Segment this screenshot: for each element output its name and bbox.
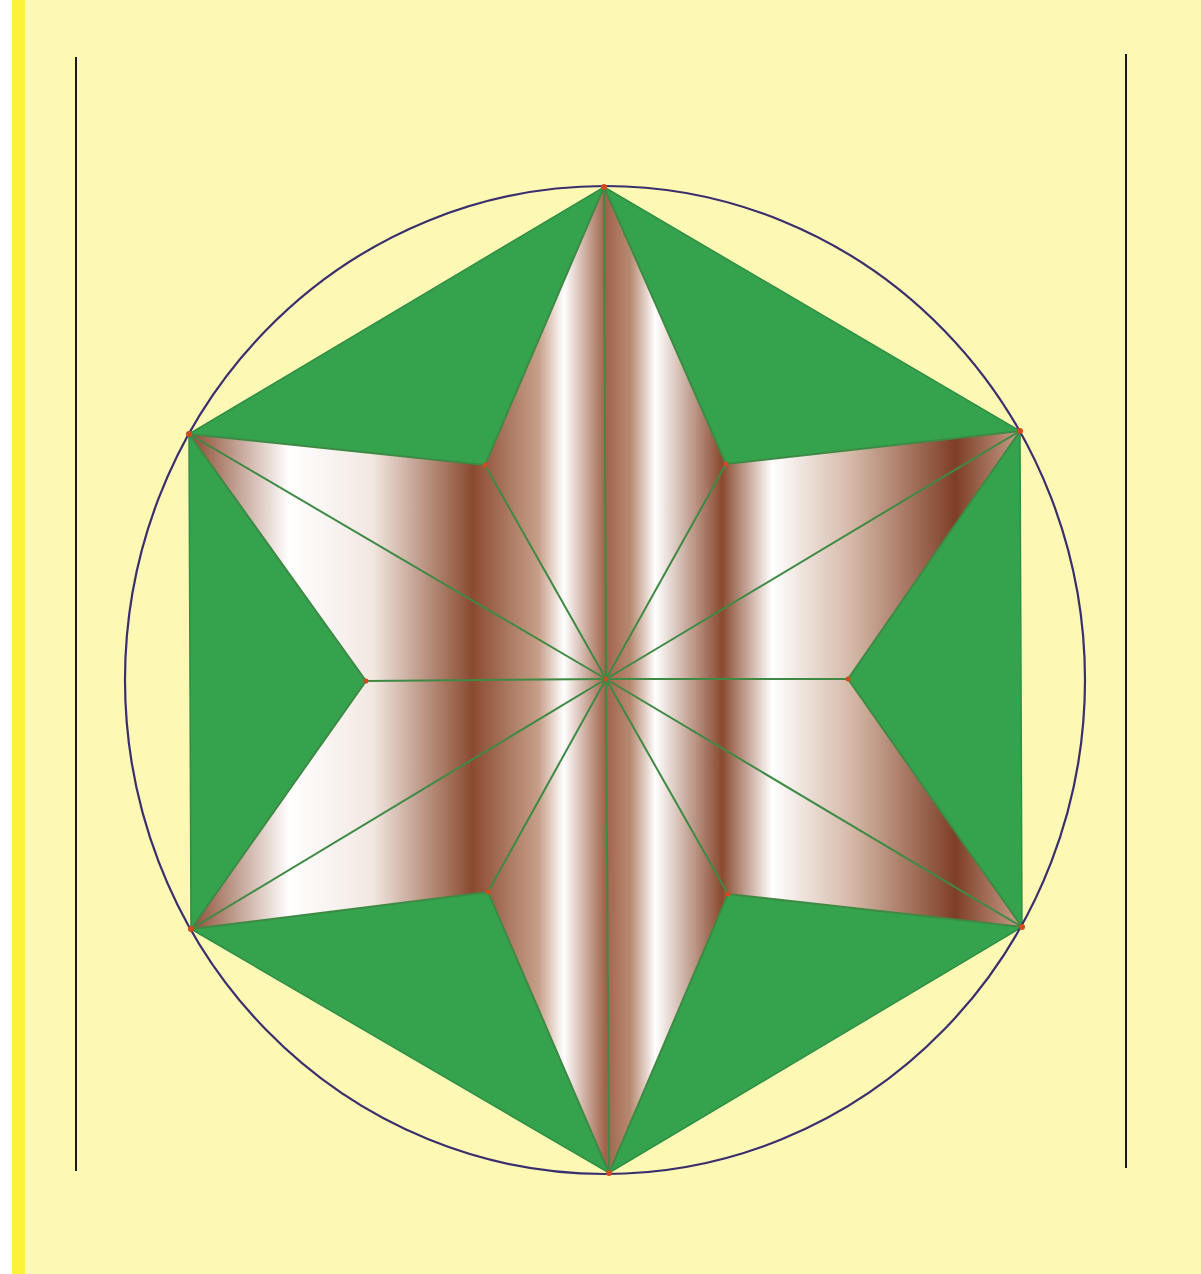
star-diagram bbox=[0, 0, 1201, 1274]
